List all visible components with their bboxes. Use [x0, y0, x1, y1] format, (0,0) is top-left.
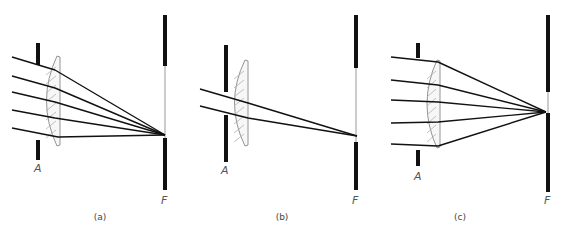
screen-label: F	[161, 194, 168, 207]
screen-top-bar	[546, 15, 550, 92]
aperture-bottom-bar	[416, 150, 420, 166]
aperture-label: A	[220, 164, 229, 177]
screen-bottom-bar	[163, 138, 167, 190]
panel-caption: (b)	[276, 212, 289, 222]
screen-top-bar	[354, 15, 358, 68]
screen-top-bar	[163, 15, 167, 66]
panel-a: AF(a)	[12, 15, 168, 222]
aperture-bottom-bar	[224, 115, 228, 162]
panel-c: AF(c)	[391, 15, 551, 222]
panel-caption: (a)	[94, 212, 107, 222]
light-ray	[391, 57, 546, 112]
aperture-label: A	[33, 162, 42, 175]
screen-bottom-bar	[354, 142, 358, 190]
screen-bottom-bar	[546, 113, 550, 192]
aperture-label: A	[413, 170, 422, 183]
panel-caption: (c)	[454, 212, 466, 222]
aperture-top-bar	[36, 43, 40, 65]
light-ray	[12, 128, 165, 137]
aperture-bottom-bar	[36, 140, 40, 160]
aperture-top-bar	[416, 43, 420, 58]
aperture-top-bar	[224, 45, 228, 92]
optics-diagram: AF(a)AF(b)AF(c)	[0, 0, 561, 232]
light-ray	[12, 92, 165, 135]
panel-b: AF(b)	[200, 15, 359, 222]
screen-label: F	[544, 194, 551, 207]
light-ray	[391, 80, 546, 112]
light-ray	[12, 110, 165, 135]
light-ray	[200, 106, 357, 136]
light-ray	[12, 76, 165, 135]
screen-label: F	[352, 194, 359, 207]
light-ray	[391, 112, 546, 123]
light-ray	[391, 112, 546, 146]
